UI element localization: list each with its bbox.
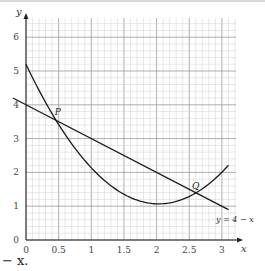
grid	[26, 18, 236, 240]
footer-text: − x.	[2, 253, 29, 268]
y-axis-arrow-icon	[24, 13, 29, 19]
y-tick-label: 3	[13, 134, 19, 144]
chart: 00.511.522.530123456 x y P Q y = 4 − x	[0, 0, 265, 271]
tick-labels: 00.511.522.530123456	[13, 32, 225, 255]
y-tick-label: 1	[13, 201, 19, 211]
point-q-label: Q	[192, 181, 200, 191]
x-tick-label: 1	[88, 245, 94, 255]
y-tick-label: 0	[13, 235, 19, 245]
x-axis-label: x	[241, 243, 247, 254]
x-tick-label: 2	[154, 245, 160, 255]
y-tick-label: 5	[13, 66, 19, 76]
y-tick-label: 2	[13, 167, 19, 177]
x-tick-label: 3	[219, 245, 225, 255]
axes	[24, 13, 244, 243]
y-axis-label: y	[15, 6, 22, 17]
x-tick-label: 2.5	[182, 245, 197, 255]
x-axis-arrow-icon	[237, 238, 243, 243]
point-p-label: P	[54, 107, 62, 117]
x-tick-label: 0.5	[51, 245, 66, 255]
y-tick-label: 6	[13, 32, 19, 42]
x-tick-label: 1.5	[117, 245, 132, 255]
line-equation-label: y = 4 − x	[215, 215, 254, 224]
